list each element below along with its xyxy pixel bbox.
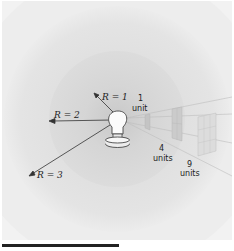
label-area4-value: 4 (159, 144, 164, 153)
area-patch-4 (172, 107, 182, 141)
label-r1: R = 1 (101, 92, 128, 102)
area-patch-1 (145, 114, 150, 130)
label-area1-unit: unit (132, 104, 148, 113)
label-r2: R = 2 (53, 110, 80, 120)
label-area9-value: 9 (187, 160, 192, 169)
caption-rule (2, 244, 119, 247)
area-patch-9 (198, 113, 216, 156)
label-area1-value: 1 (138, 94, 143, 103)
inverse-square-diagram: R = 1 R = 2 R = 3 1 unit 4 units 9 units (2, 1, 232, 240)
label-r3: R = 3 (36, 170, 63, 180)
label-area9-unit: units (180, 169, 200, 178)
label-area4-unit: units (153, 154, 173, 163)
